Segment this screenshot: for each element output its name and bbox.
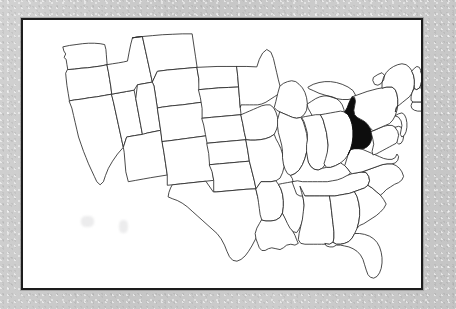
page-background <box>0 0 456 309</box>
state-washington[interactable] <box>63 43 107 69</box>
state-nebraska[interactable] <box>202 115 246 144</box>
state-new-mexico[interactable] <box>162 136 213 186</box>
state-texas[interactable] <box>168 181 265 261</box>
us-states-map[interactable] <box>23 20 421 288</box>
state-arizona[interactable] <box>123 130 167 181</box>
state-wyoming[interactable] <box>152 67 202 108</box>
state-kansas[interactable] <box>207 140 249 165</box>
state-connecticut[interactable] <box>411 102 421 111</box>
state-colorado[interactable] <box>157 102 207 141</box>
map-frame <box>21 18 423 290</box>
state-arkansas[interactable] <box>256 181 283 221</box>
state-oklahoma[interactable] <box>210 161 256 192</box>
state-south-dakota[interactable] <box>199 87 241 118</box>
state-minnesota[interactable] <box>237 49 282 107</box>
state-north-dakota[interactable] <box>197 66 238 89</box>
